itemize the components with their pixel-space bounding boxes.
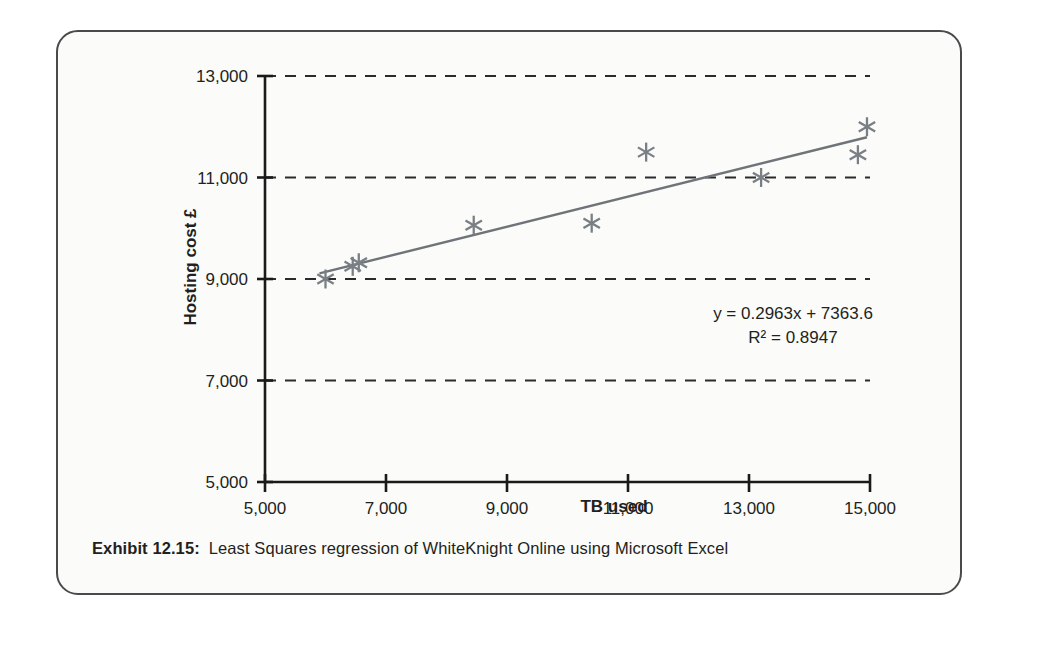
x-axis-title: TB used bbox=[580, 497, 647, 516]
trendline bbox=[319, 137, 867, 273]
page-root: 5,0007,0009,00011,00013,00015,000 5,0007… bbox=[0, 0, 1046, 650]
y-tick-group: 5,0007,0009,00011,00013,000 bbox=[196, 67, 273, 492]
data-points-group bbox=[317, 117, 875, 288]
y-axis-title: Hosting cost £ bbox=[181, 208, 200, 326]
x-tick-label-9000: 9,000 bbox=[486, 499, 529, 518]
figure-caption: Exhibit 12.15: Least Squares regression … bbox=[58, 539, 964, 595]
y-tick-label-13000: 13,000 bbox=[196, 67, 248, 86]
chart-area: 5,0007,0009,00011,00013,00015,000 5,0007… bbox=[58, 32, 964, 537]
data-point bbox=[465, 216, 481, 235]
caption-exhibit-label: Exhibit 12.15: bbox=[92, 539, 200, 558]
data-point bbox=[859, 117, 875, 136]
data-point bbox=[638, 143, 654, 162]
caption-description: Least Squares regression of WhiteKnight … bbox=[209, 539, 728, 558]
x-tick-group: 5,0007,0009,00011,00013,00015,000 bbox=[244, 474, 896, 518]
figure-card: 5,0007,0009,00011,00013,00015,000 5,0007… bbox=[56, 30, 962, 595]
trendline-group bbox=[319, 137, 867, 273]
y-tick-label-5000: 5,000 bbox=[205, 473, 248, 492]
x-tick-label-5000: 5,000 bbox=[244, 499, 287, 518]
data-point bbox=[583, 214, 599, 233]
y-tick-label-7000: 7,000 bbox=[205, 372, 248, 391]
y-tick-label-11000: 11,000 bbox=[197, 169, 248, 188]
x-tick-label-13000: 13,000 bbox=[723, 499, 775, 518]
scatter-plot: 5,0007,0009,00011,00013,00015,000 5,0007… bbox=[58, 32, 964, 537]
x-tick-label-7000: 7,000 bbox=[365, 499, 408, 518]
y-tick-label-9000: 9,000 bbox=[205, 270, 248, 289]
regression-equation-label: y = 0.2963x + 7363.6 bbox=[713, 304, 873, 323]
r-squared-label: R² = 0.8947 bbox=[748, 328, 837, 347]
data-point bbox=[850, 145, 866, 164]
x-tick-label-15000: 15,000 bbox=[844, 499, 896, 518]
